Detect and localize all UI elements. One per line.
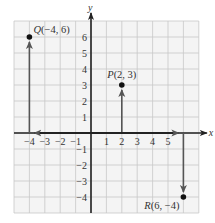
x-tick-label: −3 bbox=[39, 136, 50, 147]
point-label-R: R(6, −4) bbox=[143, 200, 180, 212]
point-Q bbox=[27, 34, 33, 40]
x-axis-label: x bbox=[208, 127, 214, 138]
point-P bbox=[119, 82, 125, 88]
x-tick-label: −2 bbox=[55, 136, 66, 147]
y-tick-label: −4 bbox=[76, 192, 87, 203]
y-tick-label: −3 bbox=[76, 176, 87, 187]
y-tick-label: 3 bbox=[82, 80, 87, 91]
x-tick-label: 2 bbox=[119, 136, 124, 147]
point-label-P: P(2, 3) bbox=[106, 69, 137, 81]
x-tick-label: 5 bbox=[166, 136, 171, 147]
coordinate-plane-figure: xy −4−3−2−112345654321−1−2−3−4 Q(−4, 6)P… bbox=[0, 0, 215, 223]
point-label-Q: Q(−4, 6) bbox=[33, 24, 70, 36]
y-tick-label: −1 bbox=[76, 144, 87, 155]
y-tick-label: 5 bbox=[82, 48, 87, 59]
x-tick-label: 3 bbox=[135, 136, 140, 147]
y-tick-label: 2 bbox=[82, 96, 87, 107]
y-tick-label: 1 bbox=[82, 112, 87, 123]
x-tick-label: 4 bbox=[150, 136, 155, 147]
y-tick-label: 6 bbox=[82, 32, 87, 43]
x-tick-label: −4 bbox=[24, 136, 35, 147]
y-tick-label: 4 bbox=[82, 64, 87, 75]
x-tick-label: 1 bbox=[104, 136, 109, 147]
y-tick-label: −2 bbox=[76, 160, 87, 171]
point-R bbox=[181, 194, 187, 200]
y-axis-label: y bbox=[87, 2, 93, 13]
